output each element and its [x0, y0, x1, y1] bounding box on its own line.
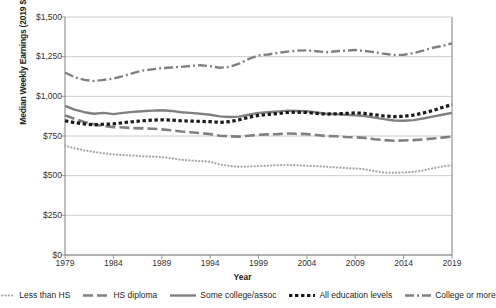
series-line-all-education-levels — [65, 105, 452, 125]
legend-item[interactable]: College or more — [405, 290, 495, 300]
legend-swatch-square-dot-icon — [289, 291, 315, 300]
legend-item[interactable]: Less than HS — [0, 290, 70, 300]
legend-swatch-solid-icon — [170, 291, 196, 300]
legend-item[interactable]: HS diploma — [83, 290, 157, 300]
legend-label: Less than HS — [19, 290, 70, 300]
x-axis-tick-label: 1999 — [239, 258, 279, 268]
y-axis-tick-label: $1,500 — [18, 13, 62, 22]
x-axis-tick-label: 1994 — [190, 258, 230, 268]
x-axis-tick-label: 1989 — [142, 258, 182, 268]
x-axis-tick-label: 2009 — [335, 258, 375, 268]
legend-label: Some college/assoc — [200, 290, 276, 300]
y-axis-tick-label: $500 — [18, 171, 62, 180]
legend-item[interactable]: Some college/assoc — [170, 290, 276, 300]
y-axis-tick-label: $750 — [18, 132, 62, 141]
x-axis-tick-label: 2004 — [287, 258, 327, 268]
legend-label: College or more — [435, 290, 495, 300]
legend-swatch-dotted-icon — [0, 291, 15, 300]
x-axis-title: Year — [0, 272, 485, 282]
legend-swatch-dash-dot-icon — [405, 291, 431, 300]
x-axis-tick-label: 2014 — [384, 258, 424, 268]
series-line-some-college-assoc — [65, 106, 452, 121]
legend-swatch-long-dash-icon — [83, 291, 109, 300]
x-axis-tick-label: 2019 — [432, 258, 472, 268]
x-axis-tick-label: 1984 — [93, 258, 133, 268]
y-axis-tick-label: $250 — [18, 211, 62, 220]
y-axis-tick-label: $1,000 — [18, 92, 62, 101]
series-line-college-or-more — [65, 43, 452, 81]
legend-label: All education levels — [319, 290, 392, 300]
chart-legend: Less than HSHS diplomaSome college/assoc… — [0, 290, 485, 300]
series-line-hs-diploma — [65, 115, 452, 140]
legend-label: HS diploma — [113, 290, 157, 300]
series-line-less-than-hs — [65, 146, 452, 173]
legend-item[interactable]: All education levels — [289, 290, 392, 300]
y-axis-tick-label: $1,250 — [18, 52, 62, 61]
x-axis-tick-label: 1979 — [45, 258, 85, 268]
